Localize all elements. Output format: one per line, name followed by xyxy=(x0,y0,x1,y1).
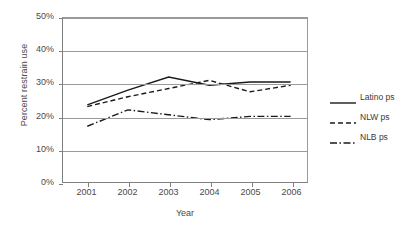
y-tick-mark xyxy=(59,84,63,85)
x-tick-label: 2006 xyxy=(272,188,312,197)
y-tick-mark xyxy=(59,18,63,19)
legend-item-nlb-ps[interactable]: NLB ps xyxy=(330,132,412,142)
y-tick-label: 50% xyxy=(20,12,54,21)
legend-label: NLW ps xyxy=(360,112,390,122)
x-tick-label: 2003 xyxy=(149,188,189,197)
x-axis-title: Year xyxy=(62,208,308,218)
gridline xyxy=(63,18,307,19)
gridline xyxy=(63,51,307,52)
plot-area xyxy=(62,17,308,183)
y-tick-label: 40% xyxy=(20,45,54,54)
legend-swatch-dashdot-icon xyxy=(330,133,356,141)
y-tick-mark xyxy=(59,51,63,52)
series-line-latino-ps xyxy=(87,77,290,105)
y-axis-tick-labels: 0%10%20%30%40%50% xyxy=(20,0,54,229)
x-tick-label: 2004 xyxy=(190,188,230,197)
y-tick-mark xyxy=(59,184,63,185)
y-tick-mark xyxy=(59,151,63,152)
x-axis-tick-labels: 200120022003200420052006 xyxy=(62,188,308,202)
gridline xyxy=(63,151,307,152)
series-lines xyxy=(63,18,307,182)
x-tick-label: 2001 xyxy=(67,188,107,197)
legend-label: NLB ps xyxy=(360,132,388,142)
y-tick-mark xyxy=(59,118,63,119)
legend-swatch-solid-icon xyxy=(330,93,356,101)
y-tick-label: 0% xyxy=(20,178,54,187)
legend-label: Latino ps xyxy=(360,92,395,102)
line-chart: Percent restrain use 0%10%20%30%40%50% 2… xyxy=(0,0,412,229)
x-tick-label: 2005 xyxy=(231,188,271,197)
y-tick-label: 10% xyxy=(20,145,54,154)
gridline xyxy=(63,84,307,85)
y-tick-label: 30% xyxy=(20,78,54,87)
gridline xyxy=(63,118,307,119)
chart-legend: Latino psNLW psNLB ps xyxy=(330,92,412,142)
legend-item-nlw-ps[interactable]: NLW ps xyxy=(330,112,412,122)
y-tick-label: 20% xyxy=(20,112,54,121)
legend-item-latino-ps[interactable]: Latino ps xyxy=(330,92,412,102)
x-tick-label: 2002 xyxy=(108,188,148,197)
legend-swatch-dashed-icon xyxy=(330,113,356,121)
